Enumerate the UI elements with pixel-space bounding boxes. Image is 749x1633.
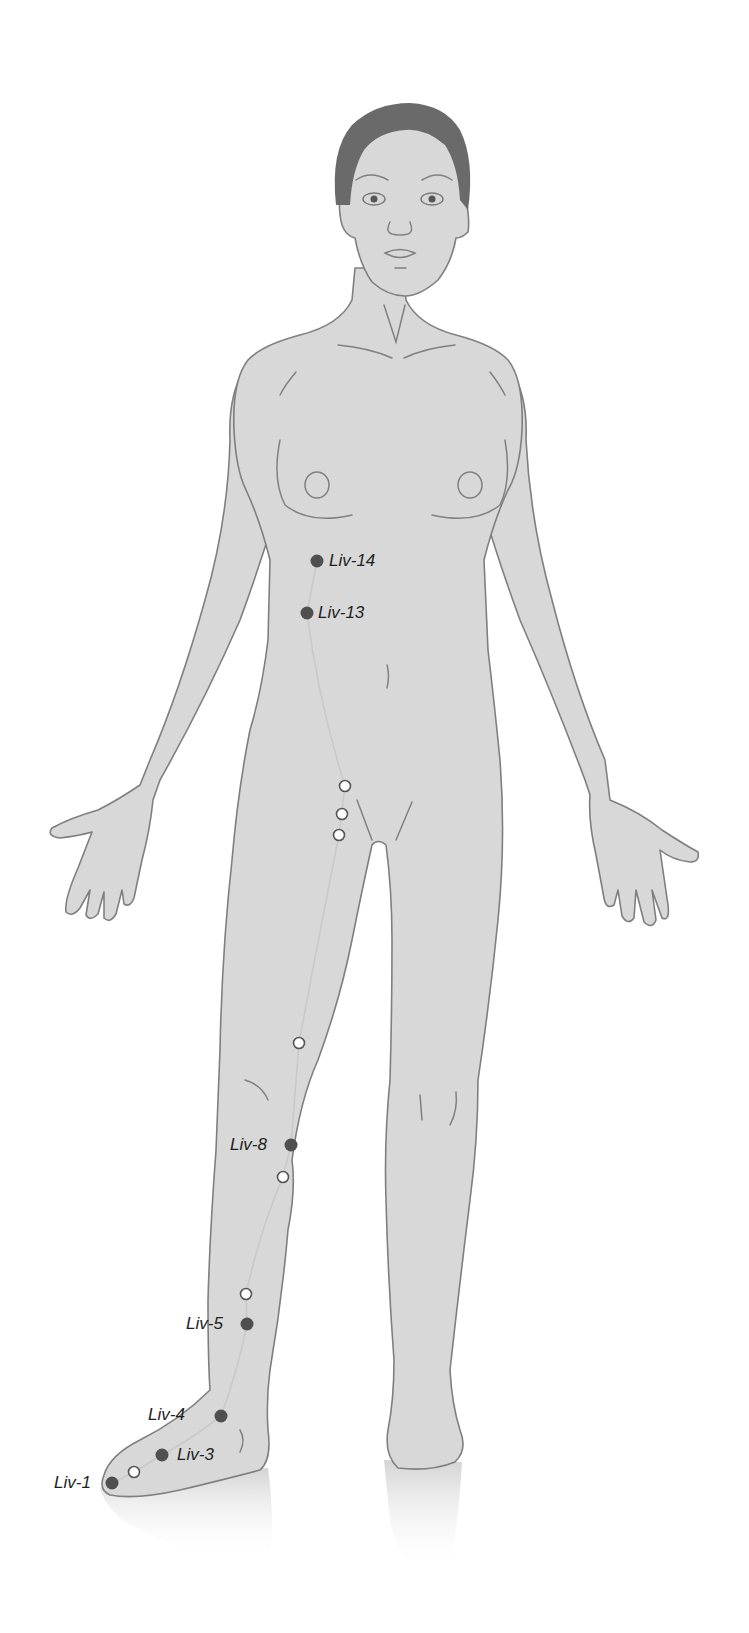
body-figure [0,0,749,1633]
label-liv-13: Liv-13 [318,604,364,621]
label-liv-8: Liv-8 [230,1136,267,1153]
unlabeled-point [294,1038,305,1049]
point-liv14 [311,555,324,568]
torso-legs [102,268,522,1497]
unlabeled-point [278,1172,289,1183]
label-liv-3: Liv-3 [177,1446,214,1463]
point-liv1 [106,1477,119,1490]
point-liv4 [215,1410,228,1423]
point-liv3 [156,1449,169,1462]
unlabeled-point [241,1289,252,1300]
unlabeled-point [129,1467,140,1478]
label-liv-5: Liv-5 [186,1315,223,1332]
point-liv13 [301,607,314,620]
label-liv-1: Liv-1 [54,1474,91,1491]
unlabeled-point [340,781,351,792]
label-liv-14: Liv-14 [329,552,375,569]
unlabeled-point [334,830,345,841]
unlabeled-point [337,809,348,820]
label-liv-4: Liv-4 [148,1406,185,1423]
point-liv5 [241,1318,254,1331]
point-liv8 [285,1139,298,1152]
